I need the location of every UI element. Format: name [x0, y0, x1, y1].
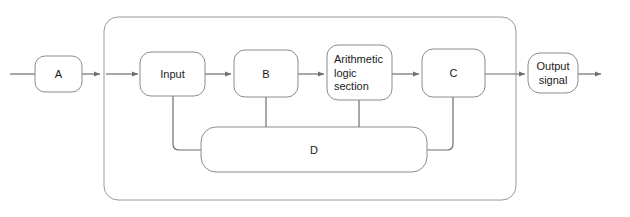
block-diagram: AInputBArithmeticlogicsectionCOutputsign…	[0, 0, 630, 217]
node-label-c: C	[450, 67, 458, 79]
node-output: Outputsignal	[528, 53, 578, 93]
node-label-als: section	[334, 80, 369, 92]
node-als: Arithmeticlogicsection	[327, 45, 392, 100]
node-label-a: A	[55, 68, 63, 80]
node-label-als: logic	[334, 67, 357, 79]
node-a: A	[35, 56, 82, 92]
system-boundary	[104, 17, 516, 200]
node-label-output: Output	[536, 60, 569, 72]
connector-c-to-d	[427, 97, 453, 150]
system-boundary-group	[104, 17, 516, 200]
node-label-als: Arithmetic	[334, 53, 383, 65]
node-label-d: D	[310, 144, 318, 156]
node-input: Input	[140, 52, 205, 96]
diagram-canvas: AInputBArithmeticlogicsectionCOutputsign…	[0, 0, 630, 217]
node-d: D	[201, 127, 427, 172]
node-b: B	[234, 50, 298, 97]
node-label-output: signal	[539, 74, 568, 86]
node-c: C	[422, 49, 485, 97]
node-label-input: Input	[160, 68, 184, 80]
node-label-b: B	[262, 68, 269, 80]
node-group: AInputBArithmeticlogicsectionCOutputsign…	[35, 45, 578, 172]
connector-input-to-d	[173, 96, 201, 150]
